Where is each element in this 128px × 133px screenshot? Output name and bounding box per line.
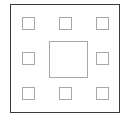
pad-top-left [22, 17, 35, 30]
pad-bottom-center [59, 87, 72, 100]
pad-bottom-right [96, 87, 109, 100]
pad-bottom-left [22, 87, 35, 100]
pad-middle-left [22, 52, 35, 65]
center-pad [49, 41, 88, 78]
pad-middle-right [96, 52, 109, 65]
pad-top-right [96, 17, 109, 30]
pad-top-center [59, 17, 72, 30]
outer-frame [10, 4, 120, 113]
diagram-canvas [0, 0, 128, 133]
